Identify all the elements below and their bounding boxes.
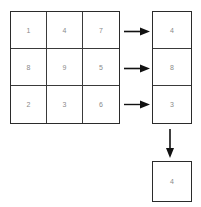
final-result-cell: 4	[152, 161, 192, 202]
reduced-cell-r2: 8	[153, 49, 191, 86]
matrix-cell-r1c3: 7	[83, 12, 119, 49]
row-2-arrow-icon	[124, 64, 150, 73]
reduced-column: 4 8 3	[152, 11, 192, 124]
reduced-cell-r1: 4	[153, 12, 191, 49]
matrix-cell-r3c1: 2	[11, 86, 47, 123]
matrix-cell-r2c1: 8	[11, 49, 47, 86]
row-1-arrow-icon	[124, 27, 150, 36]
source-matrix: 1 4 7 8 9 5 2 3 6	[10, 11, 120, 124]
matrix-cell-r3c3: 6	[83, 86, 119, 123]
reduced-cell-r3: 3	[153, 86, 191, 123]
matrix-cell-r3c2: 3	[47, 86, 83, 123]
matrix-cell-r1c2: 4	[47, 12, 83, 49]
matrix-cell-r2c3: 5	[83, 49, 119, 86]
column-arrow-icon	[165, 129, 175, 158]
matrix-reduction-diagram: 1 4 7 8 9 5 2 3 6 4 8 3	[0, 0, 201, 207]
matrix-cell-r1c1: 1	[11, 12, 47, 49]
matrix-cell-r2c2: 9	[47, 49, 83, 86]
row-3-arrow-icon	[124, 100, 150, 109]
